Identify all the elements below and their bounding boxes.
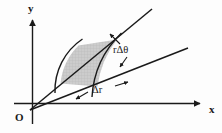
x-axis-label: x: [209, 104, 215, 115]
polar-area-element-figure: y x O rΔθ Δr: [0, 0, 222, 133]
dr-left-arrow: [76, 92, 88, 99]
lower-ray: [30, 48, 188, 110]
y-axis-label: y: [28, 3, 34, 14]
upper-ray: [30, 9, 152, 110]
rdtheta-lower-leader-arrow: [120, 57, 127, 67]
arc-length-label: rΔθ: [113, 45, 128, 56]
dr-right-arrow: [115, 82, 128, 86]
radial-thickness-label: Δr: [92, 85, 102, 96]
origin-label: O: [15, 112, 24, 123]
figure-canvas: [0, 0, 222, 133]
